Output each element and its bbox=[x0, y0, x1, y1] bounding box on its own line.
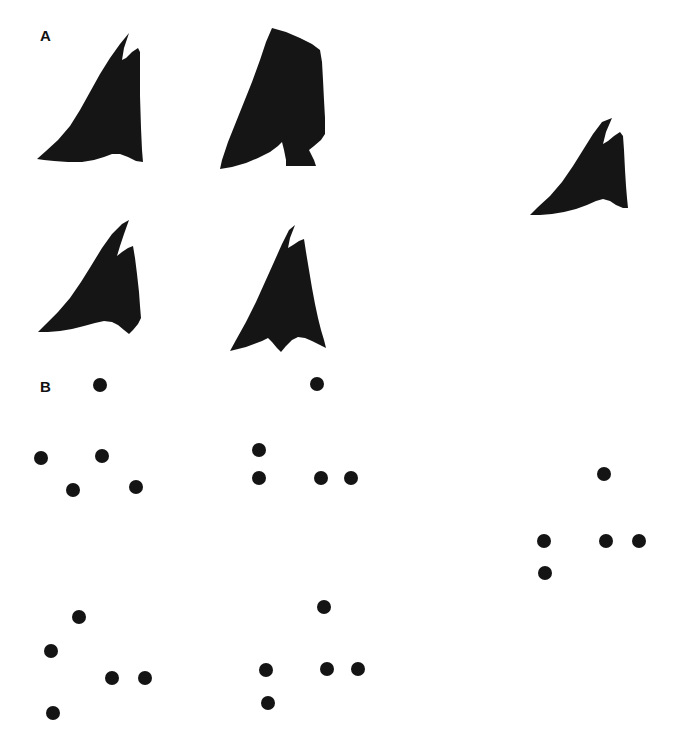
dot-marker bbox=[72, 610, 86, 624]
dot-marker bbox=[66, 483, 80, 497]
dot-marker bbox=[538, 566, 552, 580]
dot-marker bbox=[138, 671, 152, 685]
dot-marker bbox=[597, 467, 611, 481]
dot-marker bbox=[344, 471, 358, 485]
dots-top-left bbox=[34, 378, 143, 497]
dot-marker bbox=[537, 534, 551, 548]
dot-marker bbox=[34, 451, 48, 465]
figure-canvas: A B bbox=[0, 0, 681, 748]
dot-marker bbox=[44, 644, 58, 658]
dot-marker bbox=[632, 534, 646, 548]
dot-marker bbox=[129, 480, 143, 494]
dot-marker bbox=[252, 443, 266, 457]
dots-bottom-left bbox=[44, 610, 152, 720]
dot-marker bbox=[261, 696, 275, 710]
dot-marker bbox=[93, 378, 107, 392]
dot-marker bbox=[320, 662, 334, 676]
panel-b-dots bbox=[0, 0, 681, 748]
dot-marker bbox=[599, 534, 613, 548]
dot-marker bbox=[314, 471, 328, 485]
dot-marker bbox=[95, 449, 109, 463]
dot-marker bbox=[317, 600, 331, 614]
dots-bottom-middle bbox=[259, 600, 365, 710]
dot-marker bbox=[252, 471, 266, 485]
dots-top-middle bbox=[252, 377, 358, 485]
dot-marker bbox=[46, 706, 60, 720]
dot-marker bbox=[105, 671, 119, 685]
dot-marker bbox=[310, 377, 324, 391]
dots-right bbox=[537, 467, 646, 580]
dot-marker bbox=[259, 663, 273, 677]
dot-marker bbox=[351, 662, 365, 676]
